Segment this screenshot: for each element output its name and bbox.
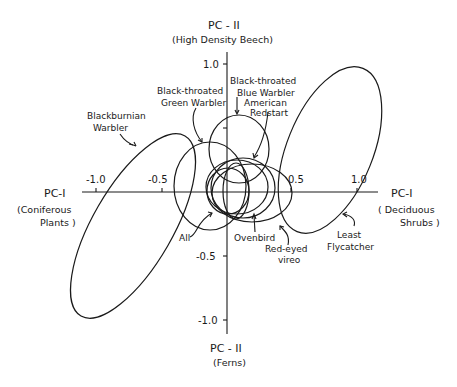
label-blackburnian: Warbler <box>93 123 128 133</box>
ellipse-all <box>207 168 249 214</box>
species-labels: Blackburnian Warbler Black-throated Gree… <box>87 76 374 265</box>
label-red-eyed: vireo <box>278 255 301 265</box>
x-axis-left-sub: (Coniferous <box>17 204 72 215</box>
label-arrows <box>120 97 355 245</box>
arrow-bt-green <box>193 108 202 142</box>
arrow-blackburnian <box>120 134 136 146</box>
label-bt-blue: Black-throated <box>230 76 296 86</box>
y-axis-bottom-title: PC - II <box>210 342 242 355</box>
y-axis-top-sub: (High Density Beech) <box>172 34 273 45</box>
label-bt-green: Green Warbler <box>161 98 226 108</box>
label-least: Least <box>337 230 362 240</box>
label-all: All <box>179 233 190 243</box>
x-axis-left-sub: Plants ) <box>40 217 76 228</box>
x-tick-label: -1.0 <box>86 174 106 185</box>
pca-niche-diagram: -1.0 -0.5 0.5 1.0 1.0 -0.5 -1.0 PC-I (Co… <box>0 0 457 387</box>
ellipse-ovenbird <box>206 160 268 214</box>
y-axis-top-title: PC - II <box>208 19 240 32</box>
ellipse-bt-blue <box>209 115 269 183</box>
label-bt-blue: Blue Warbler <box>237 88 295 98</box>
y-tick-label: -0.5 <box>196 251 216 262</box>
label-least: Flycatcher <box>327 242 374 252</box>
label-redstart: American <box>244 98 287 108</box>
y-axis-bottom-sub: (Ferns) <box>213 357 246 368</box>
label-ovenbird: Ovenbird <box>234 233 275 243</box>
arrow-red-eyed <box>280 226 289 245</box>
x-axis-right-title: PC-I <box>391 187 413 200</box>
x-axis-left-title: PC-I <box>44 187 66 200</box>
niche-ellipses <box>46 52 402 336</box>
x-axis-right-sub: ( Deciduous <box>378 204 435 215</box>
x-tick-label: -0.5 <box>148 174 168 185</box>
x-axis-right-sub: Shrubs ) <box>400 217 440 228</box>
label-redstart: Redstart <box>250 108 289 118</box>
ellipse-red-eyed-vireo <box>212 164 292 222</box>
label-red-eyed: Red-eyed <box>265 244 307 254</box>
y-tick-label: -1.0 <box>198 315 218 326</box>
y-tick-label: 1.0 <box>203 59 219 70</box>
label-blackburnian: Blackburnian <box>87 111 146 121</box>
label-bt-green: Black-throated <box>157 86 223 96</box>
